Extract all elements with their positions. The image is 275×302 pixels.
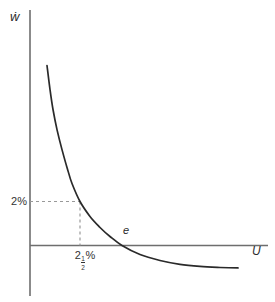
phillips-curve-figure: ẇ U 2% 212% e: [0, 0, 275, 302]
y-axis-label: ẇ: [10, 10, 19, 23]
x-mark-whole: 2: [75, 249, 81, 261]
equilibrium-point-label: e: [123, 225, 129, 236]
y-mark-label: 2%: [3, 196, 27, 207]
phillips-curve: [47, 66, 238, 268]
x-mark-fraction-denominator: 2: [81, 262, 85, 271]
x-mark-percent-sign: %: [85, 249, 95, 261]
plot-canvas: [0, 0, 275, 302]
x-mark-label: 212%: [68, 250, 102, 271]
x-axis-label: U: [252, 245, 261, 257]
